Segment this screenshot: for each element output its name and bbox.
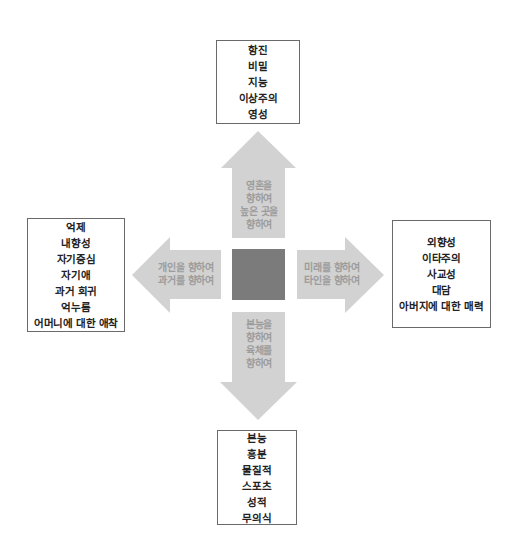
top-box-item: 항진 — [248, 42, 267, 58]
bottom-box-item: 본능 — [247, 430, 266, 446]
center-square — [232, 249, 285, 300]
top-box-item: 영성 — [248, 106, 267, 122]
right-box-item: 외향성 — [427, 234, 456, 250]
bottom-box-item: 무의식 — [242, 510, 271, 526]
down-arrow-label-line: 향하여 — [246, 357, 272, 370]
left-box-item: 내향성 — [61, 235, 90, 251]
right-box: 외향성 이타주의 사교성 대담 아버지에 대한 매력 — [392, 220, 491, 328]
down-arrow-label-line: 본능을 — [246, 318, 272, 331]
top-box-item: 이상주의 — [239, 90, 278, 106]
right-arrow-label-line: 타인을 향하여 — [304, 274, 359, 287]
right-box-item: 대담 — [432, 282, 451, 298]
right-box-item: 이타주의 — [422, 250, 461, 266]
down-arrow-label-line: 육체를 — [246, 344, 272, 357]
bottom-box: 본능 흥분 물질적 스포츠 성적 무의식 — [217, 430, 297, 525]
bottom-box-item: 흥분 — [247, 446, 266, 462]
top-box-item: 비밀 — [248, 58, 267, 74]
left-box-item: 과거 회귀 — [55, 283, 97, 299]
right-arrow-label-line: 미래를 향하여 — [304, 261, 359, 274]
left-box-item: 억제 — [66, 219, 85, 235]
left-box-item: 자기중심 — [57, 251, 96, 267]
top-box: 항진 비밀 지능 이상주의 영성 — [216, 40, 300, 124]
left-box-item: 어머니에 대한 애착 — [34, 315, 118, 331]
right-box-item: 아버지에 대한 매력 — [399, 298, 483, 314]
up-arrow-label-line: 향하여 — [246, 218, 272, 231]
left-box: 억제 내향성 자기중심 자기애 과거 회귀 억누름 어머니에 대한 애착 — [27, 218, 125, 332]
bottom-box-item: 물질적 — [242, 462, 271, 478]
top-box-item: 지능 — [248, 74, 267, 90]
bottom-box-item: 스포츠 — [242, 478, 271, 494]
right-box-item: 사교성 — [427, 266, 456, 282]
down-arrow-label: 본능을 향하여 육체를 향하여 — [222, 314, 296, 374]
left-box-item: 자기애 — [61, 267, 90, 283]
up-arrow-label-line: 향하여 — [246, 192, 272, 205]
bottom-box-item: 성적 — [247, 494, 266, 510]
up-arrow-label: 영혼을 향하여 높은 곳을 향하여 — [222, 175, 296, 235]
down-arrow-label-line: 향하여 — [246, 331, 272, 344]
up-arrow-label-line: 높은 곳을 — [240, 205, 278, 218]
right-arrow-label: 미래를 향하여 타인을 향하여 — [297, 256, 367, 292]
left-arrow-label-line: 과거를 향하여 — [158, 274, 213, 287]
left-arrow-label-line: 개인을 향하여 — [158, 261, 213, 274]
left-arrow-label: 개인을 향하여 과거를 향하여 — [152, 256, 220, 292]
up-arrow-label-line: 영혼을 — [246, 179, 272, 192]
left-box-item: 억누름 — [61, 299, 90, 315]
